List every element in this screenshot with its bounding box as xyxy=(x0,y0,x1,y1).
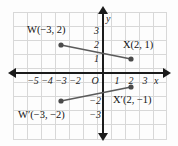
point-w xyxy=(58,42,63,47)
segments-layer xyxy=(0,0,178,146)
point-x-prime xyxy=(128,84,133,89)
label-point-w-prime: W′(−3, −2) xyxy=(18,110,65,121)
point-x xyxy=(128,56,133,61)
segment-wx xyxy=(61,45,131,59)
label-point-w: W(−3, 2) xyxy=(27,25,66,36)
label-point-x: X(2, 1) xyxy=(123,40,153,51)
point-w-prime xyxy=(58,98,63,103)
label-point-x-prime: X′(2, −1) xyxy=(113,95,152,106)
coordinate-plane-figure: −5 −4 −3 −2 O 1 2 3 x 3 2 1 −2 −3 y W(−3… xyxy=(0,0,178,146)
